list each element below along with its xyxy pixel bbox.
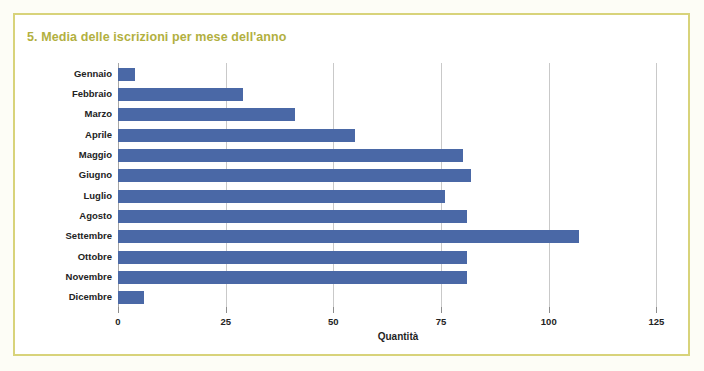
bar xyxy=(118,108,295,121)
x-tick-label: 25 xyxy=(220,316,231,327)
bar-row: Aprile xyxy=(118,129,678,142)
bar-row: Giugno xyxy=(118,169,678,182)
chart-title: 5. Media delle iscrizioni per mese dell'… xyxy=(27,30,287,44)
x-axis-label: Quantità xyxy=(118,331,678,342)
bar-row: Febbraio xyxy=(118,88,678,101)
bar-row: Luglio xyxy=(118,190,678,203)
category-label: Luglio xyxy=(84,189,113,203)
bar xyxy=(118,190,445,203)
bar xyxy=(118,149,463,162)
plot-area: 0255075100125GennaioFebbraioMarzoAprileM… xyxy=(118,63,678,307)
category-label: Aprile xyxy=(85,128,112,142)
category-label: Maggio xyxy=(79,148,112,162)
bar-row: Novembre xyxy=(118,271,678,284)
x-tick-label: 100 xyxy=(541,316,557,327)
bar-row: Gennaio xyxy=(118,68,678,81)
bar xyxy=(118,129,355,142)
bar-row: Marzo xyxy=(118,108,678,121)
category-label: Agosto xyxy=(79,209,112,223)
bar xyxy=(118,271,467,284)
x-tick-label: 50 xyxy=(328,316,339,327)
bar xyxy=(118,68,135,81)
x-tick-100 xyxy=(549,307,550,313)
x-tick-125 xyxy=(656,307,657,313)
category-label: Ottobre xyxy=(78,250,112,264)
bar-row: Maggio xyxy=(118,149,678,162)
category-label: Giugno xyxy=(79,168,112,182)
x-tick-label: 125 xyxy=(649,316,665,327)
x-tick-25 xyxy=(226,307,227,313)
category-label: Novembre xyxy=(66,270,112,284)
category-label: Febbraio xyxy=(72,87,112,101)
bar xyxy=(118,88,243,101)
bar-row: Settembre xyxy=(118,230,678,243)
bar xyxy=(118,230,579,243)
x-tick-label: 0 xyxy=(115,316,120,327)
bar xyxy=(118,169,471,182)
category-label: Marzo xyxy=(85,107,112,121)
bar xyxy=(118,251,467,264)
bar-row: Dicembre xyxy=(118,291,678,304)
x-tick-label: 75 xyxy=(436,316,447,327)
bar-row: Ottobre xyxy=(118,251,678,264)
chart-screenshot: 5. Media delle iscrizioni per mese dell'… xyxy=(0,0,704,371)
x-tick-50 xyxy=(333,307,334,313)
x-tick-0 xyxy=(118,307,119,313)
category-label: Gennaio xyxy=(74,67,112,81)
bar xyxy=(118,291,144,304)
bar xyxy=(118,210,467,223)
bar-row: Agosto xyxy=(118,210,678,223)
category-label: Dicembre xyxy=(69,290,112,304)
x-tick-75 xyxy=(441,307,442,313)
category-label: Settembre xyxy=(66,229,112,243)
